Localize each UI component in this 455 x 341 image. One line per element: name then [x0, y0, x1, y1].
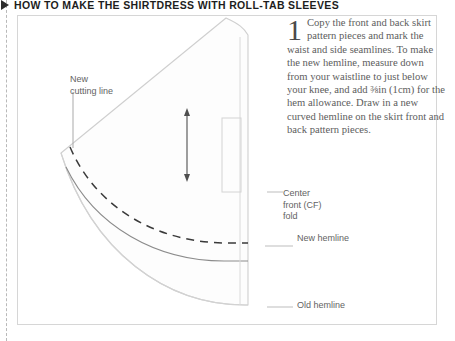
- pattern-piece-outline: [61, 18, 248, 305]
- triangle-right-icon: [1, 0, 9, 10]
- label-new-hemline: New hemline: [297, 233, 349, 245]
- header-title: HOW TO MAKE THE SHIRTDRESS WITH ROLL-TAB…: [14, 0, 339, 11]
- instruction-text: Copy the front and back skirt pattern pi…: [287, 17, 445, 135]
- label-old-hemline: Old hemline: [297, 300, 345, 312]
- instruction-block: 1Copy the front and back skirt pattern p…: [287, 16, 447, 137]
- label-new-cutting-line: New cutting line: [70, 74, 113, 97]
- page-trim-line: [6, 0, 7, 341]
- running-header: HOW TO MAKE THE SHIRTDRESS WITH ROLL-TAB…: [0, 0, 455, 12]
- step-number: 1: [287, 17, 302, 42]
- label-center-front-fold: Center front (CF) fold: [283, 188, 322, 223]
